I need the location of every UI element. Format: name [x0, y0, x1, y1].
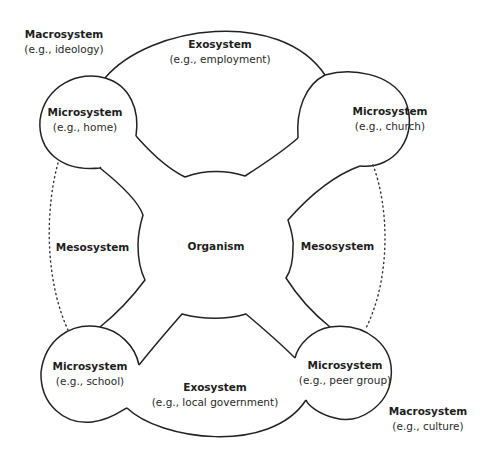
- mesosystem-right-upper-edge: [288, 166, 360, 248]
- exosystem-top-title: Exosystem: [160, 37, 280, 52]
- mesosystem-left-title: Mesosystem: [50, 240, 135, 255]
- organism-title: Organism: [176, 239, 256, 254]
- exosystem-top-example: (e.g., employment): [160, 52, 280, 67]
- exosystem-bottom-top-edge: [139, 314, 295, 365]
- mesosystem-right-label: Mesosystem: [295, 239, 380, 254]
- exosystem-top-label: Exosystem (e.g., employment): [160, 37, 280, 67]
- mesosystem-left-upper-edge: [100, 168, 143, 245]
- microsystem-top-left-title: Microsystem: [35, 105, 135, 120]
- exosystem-top-bottom-edge: [136, 136, 298, 177]
- mesosystem-left-lower-edge: [100, 245, 145, 327]
- mesosystem-right-title: Mesosystem: [295, 239, 380, 254]
- exosystem-bottom-example: (e.g., local government): [145, 395, 285, 410]
- microsystem-top-right-example: (e.g., church): [335, 119, 445, 134]
- microsystem-bottom-right-label: Microsystem (e.g., peer group): [290, 358, 400, 388]
- microsystem-bottom-left-example: (e.g., school): [40, 374, 140, 389]
- macrosystem-bottom-label: Macrosystem (e.g., culture): [378, 404, 478, 434]
- macrosystem-top-example: (e.g., ideology): [14, 42, 114, 57]
- exosystem-bottom-title: Exosystem: [145, 380, 285, 395]
- microsystem-top-left-label: Microsystem (e.g., home): [35, 105, 135, 135]
- exosystem-bottom-label: Exosystem (e.g., local government): [145, 380, 285, 410]
- microsystem-bottom-right-title: Microsystem: [290, 358, 400, 373]
- microsystem-bottom-left-title: Microsystem: [40, 359, 140, 374]
- microsystem-bottom-left-label: Microsystem (e.g., school): [40, 359, 140, 389]
- organism-label: Organism: [176, 239, 256, 254]
- microsystem-top-left-example: (e.g., home): [35, 120, 135, 135]
- macrosystem-top-label: Macrosystem (e.g., ideology): [14, 27, 114, 57]
- macrosystem-bottom-title: Macrosystem: [378, 404, 478, 419]
- microsystem-top-right-title: Microsystem: [335, 104, 445, 119]
- mesosystem-left-label: Mesosystem: [50, 240, 135, 255]
- macrosystem-top-title: Macrosystem: [14, 27, 114, 42]
- microsystem-top-right-label: Microsystem (e.g., church): [335, 104, 445, 134]
- microsystem-bottom-right-example: (e.g., peer group): [290, 373, 400, 388]
- mesosystem-right-lower-edge: [286, 248, 330, 327]
- macrosystem-bottom-example: (e.g., culture): [378, 419, 478, 434]
